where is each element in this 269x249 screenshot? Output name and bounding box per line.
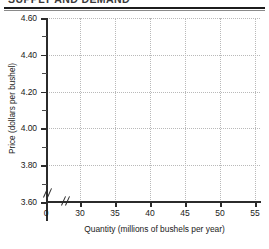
y-tick-minor-450: [42, 36, 47, 37]
gridline-h-400: [47, 128, 260, 129]
gridline-h-380: [47, 165, 260, 166]
y-tick-420: [41, 92, 47, 94]
header-title-cropped: SUPPLY AND DEMAND: [8, 0, 130, 5]
gridline-v-45: [185, 18, 186, 202]
x-tick-label-50: 50: [207, 208, 233, 218]
y-tick-440: [41, 55, 47, 57]
x-origin-label: 0: [33, 208, 59, 218]
x-tick-30: [80, 202, 82, 207]
x-tick-55: [255, 202, 257, 207]
gridline-v-30: [80, 18, 81, 202]
x-tick-40: [150, 202, 152, 207]
x-tick-label-40: 40: [137, 208, 163, 218]
header-divider: [4, 7, 265, 9]
y-tick-380: [41, 165, 47, 167]
plot-area: [47, 18, 260, 202]
y-tick-label-460: 4.60: [5, 13, 37, 23]
gridline-v-50: [220, 18, 221, 202]
gridline-v-35: [115, 18, 116, 202]
x-tick-label-55: 55: [242, 208, 268, 218]
x-tick-35: [115, 202, 117, 207]
x-axis-line: [46, 201, 261, 203]
gridline-v-55: [255, 18, 256, 202]
y-tick-400: [41, 128, 47, 130]
gridline-h-440: [47, 55, 260, 56]
y-tick-460: [41, 18, 47, 20]
x-tick-50: [220, 202, 222, 207]
gridline-h-460: [47, 18, 260, 19]
gridline-v-40: [150, 18, 151, 202]
x-tick-label-45: 45: [172, 208, 198, 218]
y-axis-title: Price (dollars per bushel): [8, 34, 17, 184]
gridline-h-420: [47, 92, 260, 93]
x-tick-label-35: 35: [102, 208, 128, 218]
y-tick-minor-430: [42, 73, 47, 74]
x-tick-45: [185, 202, 187, 207]
x-axis-title: Quantity (millions of bushels per year): [47, 224, 262, 234]
y-tick-minor-390: [42, 147, 47, 148]
y-tick-label-360: 3.60: [5, 197, 37, 207]
y-tick-360: [41, 202, 47, 204]
chart-figure: 4.60 4.40 4.20 4.00 3.80 3.60 0 30 35 40…: [0, 12, 269, 249]
x-tick-label-30: 30: [67, 208, 93, 218]
y-tick-minor-410: [42, 110, 47, 111]
y-axis-break-mark: [42, 188, 54, 202]
x-axis-break-mark: [61, 196, 75, 208]
page-header: SUPPLY AND DEMAND: [0, 0, 269, 10]
y-tick-minor-370: [42, 184, 47, 185]
header-divider-secondary: [4, 10, 265, 11]
